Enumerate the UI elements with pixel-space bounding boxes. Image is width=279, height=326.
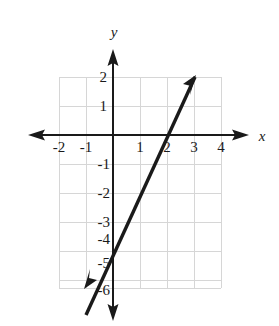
y-tick-label: -6: [98, 282, 111, 298]
x-tick-label: 4: [217, 139, 225, 155]
y-tick-label: -2: [98, 185, 111, 201]
graph-canvas: -2 -1 1 2 3 4 2 1 -1 -2 -3 -4 -5 -6 x y: [0, 0, 279, 326]
y-tick-label: 2: [100, 69, 108, 85]
x-tick-label: 3: [190, 139, 198, 155]
y-tick-label: -3: [98, 214, 111, 230]
y-tick-label: -4: [98, 231, 111, 247]
x-tick-labels: -2 -1 1 2 3 4: [53, 139, 226, 155]
grid-lines: [59, 77, 221, 288]
coordinate-plane-figure: -2 -1 1 2 3 4 2 1 -1 -2 -3 -4 -5 -6 x y: [0, 0, 279, 326]
y-tick-label: -5: [98, 255, 111, 271]
y-axis-label: y: [109, 24, 118, 40]
x-axis-label: x: [258, 128, 266, 144]
x-tick-label: 2: [163, 139, 171, 155]
x-tick-label: -2: [53, 139, 66, 155]
y-tick-label: 1: [100, 98, 108, 114]
x-tick-label: 1: [136, 139, 144, 155]
y-tick-labels: 2 1 -1 -2 -3 -4 -5 -6: [98, 69, 111, 298]
x-tick-label: -1: [80, 139, 93, 155]
y-tick-label: -1: [98, 156, 111, 172]
